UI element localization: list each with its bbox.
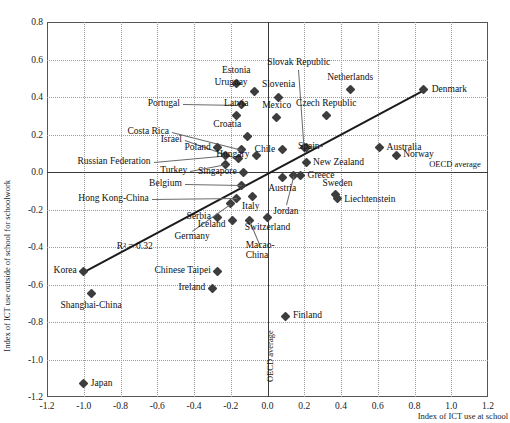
data-point-label: Liechtenstein — [344, 195, 395, 205]
y-tick-label: 0.2 — [5, 130, 43, 140]
data-point-label: Shanghai-China — [60, 301, 121, 311]
y-tick-label: 0.0 — [5, 167, 43, 177]
data-point-label: Poland — [184, 143, 210, 153]
data-point-label: Singapore — [198, 167, 237, 177]
x-tick-label: 1.2 — [482, 401, 494, 411]
data-point-label: Sweden — [322, 179, 352, 189]
data-point-label: Chinese Taipei — [154, 266, 210, 276]
x-tick-label: -1.2 — [39, 401, 54, 411]
x-axis-title: Index of ICT use at school — [418, 411, 508, 421]
data-point-label: Italy — [242, 202, 259, 212]
data-point-label: Iceland — [198, 220, 226, 230]
data-point-label: Croatia — [213, 120, 241, 130]
x-tick-label: -0.8 — [113, 401, 128, 411]
data-point-label: Estonia — [222, 66, 251, 76]
data-point-label: Mexico — [262, 101, 291, 111]
x-tick-label: -0.2 — [223, 401, 238, 411]
data-point-label: Ireland — [178, 283, 205, 293]
x-tick-label: 0.8 — [409, 401, 421, 411]
x-tick-label: -1.0 — [76, 401, 91, 411]
data-point-label: Czech Republic — [296, 99, 356, 109]
y-tick-label: -0.6 — [5, 280, 43, 290]
x-tick-label: 1.0 — [445, 401, 457, 411]
data-point-label: Latvia — [224, 99, 248, 109]
data-point-label: Turkey — [160, 166, 187, 176]
data-point-label: Slovenia — [262, 80, 295, 90]
data-point-label: Israel — [161, 135, 182, 145]
data-point-label: New Zealand — [313, 158, 364, 168]
y-tick-label: 0.4 — [5, 92, 43, 102]
x-tick-label: 0.6 — [372, 401, 384, 411]
data-point-label: Switzerland — [245, 223, 290, 233]
data-point-label: Portugal — [148, 99, 180, 109]
data-point-label: Spain — [298, 142, 320, 152]
data-point-label: Korea — [54, 266, 77, 276]
y-tick-label: 0.6 — [5, 55, 43, 65]
x-tick-label: 0.4 — [335, 401, 347, 411]
y-tick-label: -1.2 — [5, 392, 43, 402]
data-point-label: Denmark — [432, 85, 467, 95]
x-tick-label: -0.6 — [150, 401, 165, 411]
data-point-label: Germany — [174, 232, 209, 242]
x-tick-label: -0.4 — [186, 401, 201, 411]
data-point-label: Japan — [91, 379, 113, 389]
data-point-label: Hong Kong-China — [78, 194, 148, 204]
data-point-label: Netherlands — [327, 73, 373, 83]
y-tick-label: -0.8 — [5, 317, 43, 327]
oecd-average-label-horizontal: OECD average — [429, 159, 481, 169]
r-squared-annotation: R² = 0.32 — [117, 241, 153, 251]
data-point-label: Finland — [293, 311, 322, 321]
data-point-label: Hungary — [216, 150, 249, 160]
scatter-chart: Index of ICT use at school Index of ICT … — [0, 0, 510, 423]
data-point-label: Austria — [268, 184, 296, 194]
data-point-label: Jordan — [273, 207, 298, 217]
x-tick-label: 0.0 — [262, 401, 274, 411]
data-point-label: Chile — [255, 145, 276, 155]
oecd-average-label-vertical: OECD average — [265, 330, 275, 382]
y-tick-label: -0.4 — [5, 242, 43, 252]
data-point-label: Slovak Republic — [267, 58, 330, 68]
y-tick-label: 0.8 — [5, 17, 43, 27]
data-point-label: Macao-China — [246, 241, 275, 261]
data-point-label: Norway — [403, 150, 434, 160]
x-tick-label: 0.2 — [298, 401, 310, 411]
y-tick-label: -0.2 — [5, 205, 43, 215]
data-point-label: Russian Federation — [77, 157, 150, 167]
y-tick-label: -1.0 — [5, 355, 43, 365]
data-point-label: Belgium — [149, 179, 182, 189]
data-point-label: Uruguay — [214, 78, 247, 88]
